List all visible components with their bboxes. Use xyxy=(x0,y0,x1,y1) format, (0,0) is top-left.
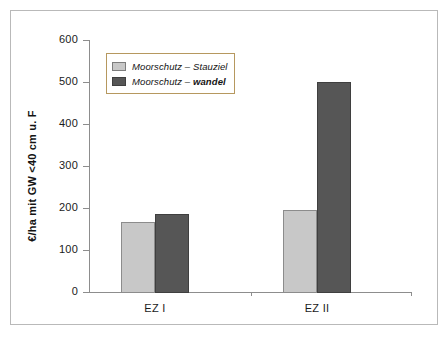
legend-swatch-wandel xyxy=(112,77,126,86)
x-tick-mid xyxy=(251,292,252,296)
x-category-label-ez2: EZ II xyxy=(277,302,357,314)
legend-label-wandel-emphasis: wandel xyxy=(193,76,226,87)
legend-swatch-stauziel xyxy=(112,62,126,71)
y-tick-100: 100 xyxy=(83,250,89,251)
y-tick-300: 300 xyxy=(83,166,89,167)
y-tick-200: 200 xyxy=(83,208,89,209)
y-tick-400: 400 xyxy=(83,124,89,125)
legend-item-wandel: Moorschutz – wandel xyxy=(112,74,228,88)
y-axis-line xyxy=(89,40,90,293)
x-category-label-ez1: EZ I xyxy=(115,302,195,314)
legend-label-stauziel: Moorschutz – Stauziel xyxy=(132,61,228,72)
bar-ez2-stauziel xyxy=(283,210,317,293)
legend-label-stauziel-emphasis: Stauziel xyxy=(193,61,228,72)
y-tick-600: 600 xyxy=(83,40,89,41)
legend-label-stauziel-prefix: Moorschutz – xyxy=(132,61,193,72)
bar-ez1-wandel xyxy=(155,214,189,293)
y-axis-title-text: €/ha mit GW <40 cm u. F xyxy=(26,110,38,241)
y-axis-title: €/ha mit GW <40 cm u. F xyxy=(23,81,41,271)
chart-legend: Moorschutz – Stauziel Moorschutz – wande… xyxy=(106,53,235,94)
bar-ez2-wandel xyxy=(317,82,351,293)
y-tick-0: 0 xyxy=(83,292,89,293)
figure-frame: €/ha mit GW <40 cm u. F 600 500 400 300 … xyxy=(10,10,438,325)
legend-item-stauziel: Moorschutz – Stauziel xyxy=(112,59,228,73)
x-tick-end xyxy=(411,292,412,296)
y-tick-500: 500 xyxy=(83,82,89,83)
legend-label-wandel-prefix: Moorschutz – xyxy=(132,76,193,87)
legend-label-wandel: Moorschutz – wandel xyxy=(132,76,226,87)
bar-ez1-stauziel xyxy=(121,222,155,293)
